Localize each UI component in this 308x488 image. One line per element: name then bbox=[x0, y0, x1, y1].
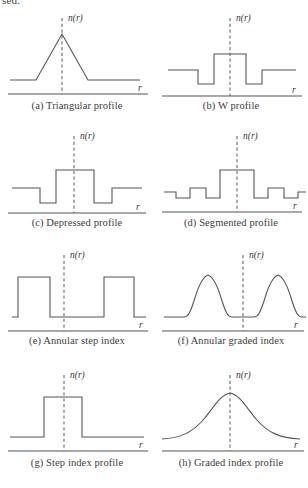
panel-caption: (h) Graded index profile bbox=[154, 457, 308, 468]
axis-label-n-of-r: n(r) bbox=[243, 131, 258, 142]
curve-w-profile bbox=[168, 54, 296, 84]
plot-segmented: n(r) r bbox=[154, 126, 308, 226]
profile-figure-grid: n(r) r (a) Triangular profile n(r) r (b)… bbox=[0, 8, 308, 488]
axis-label-r: r bbox=[138, 83, 142, 93]
axis-label-n-of-r: n(r) bbox=[236, 13, 251, 24]
panel-segmented-profile: n(r) r (d) Segmented profile bbox=[154, 126, 308, 243]
axis-label-n-of-r: n(r) bbox=[70, 250, 85, 261]
panel-caption: (d) Segmented profile bbox=[154, 217, 308, 228]
panel-caption: (c) Depressed profile bbox=[0, 217, 154, 228]
panel-caption: (a) Triangular profile bbox=[0, 100, 154, 111]
curve-annular-graded bbox=[164, 275, 306, 317]
panel-step-index-profile: n(r) r (g) Step index profile bbox=[0, 361, 154, 488]
plot-triangular: n(r) r bbox=[0, 8, 154, 108]
curve-segmented bbox=[164, 170, 306, 198]
axis-label-n-of-r: n(r) bbox=[68, 13, 83, 24]
clipped-text-above: sed. bbox=[2, 0, 20, 7]
panel-caption: (f) Annular graded index bbox=[154, 335, 308, 346]
axis-label-r: r bbox=[139, 320, 143, 330]
panel-graded-index-profile: n(r) r (h) Graded index profile bbox=[154, 361, 308, 488]
plot-annular-step: n(r) r bbox=[0, 243, 154, 343]
curve-triangular bbox=[10, 34, 140, 80]
plot-graded-index: n(r) r bbox=[154, 361, 308, 465]
panel-depressed-profile: n(r) r (c) Depressed profile bbox=[0, 126, 154, 243]
panel-w-profile: n(r) r (b) W profile bbox=[154, 8, 308, 126]
panel-annular-step-index: n(r) r (e) Annular step index bbox=[0, 243, 154, 361]
axis-label-r: r bbox=[139, 440, 143, 450]
axis-label-n-of-r: n(r) bbox=[80, 131, 95, 142]
curve-annular-step bbox=[12, 277, 146, 317]
panel-annular-graded-index: n(r) r (f) Annular graded index bbox=[154, 243, 308, 361]
plot-w-profile: n(r) r bbox=[154, 8, 308, 108]
panel-caption: (g) Step index profile bbox=[0, 457, 154, 468]
axis-label-n-of-r: n(r) bbox=[70, 370, 85, 381]
panel-triangular-profile: n(r) r (a) Triangular profile bbox=[0, 8, 154, 126]
axis-label-r: r bbox=[294, 440, 298, 450]
axis-label-r: r bbox=[292, 85, 296, 95]
axis-label-n-of-r: n(r) bbox=[236, 370, 251, 381]
plot-step-index: n(r) r bbox=[0, 361, 154, 465]
plot-depressed: n(r) r bbox=[0, 126, 154, 226]
panel-caption: (b) W profile bbox=[154, 100, 308, 111]
axis-label-r: r bbox=[294, 320, 298, 330]
axis-label-n-of-r: n(r) bbox=[249, 250, 264, 261]
plot-annular-graded: n(r) r bbox=[154, 243, 308, 343]
curve-graded-index bbox=[162, 393, 300, 439]
curve-depressed bbox=[12, 170, 142, 203]
axis-label-r: r bbox=[136, 202, 140, 212]
axis-label-r: r bbox=[293, 201, 297, 211]
curve-step-index bbox=[10, 397, 144, 437]
panel-caption: (e) Annular step index bbox=[0, 335, 154, 346]
